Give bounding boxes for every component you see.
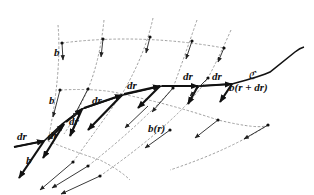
label-b-r-dr: b(r + dr) (229, 81, 268, 94)
label-dr: dr (69, 115, 80, 127)
dashed-grid (48, 18, 268, 180)
label-b-top: b (54, 46, 60, 58)
labels: b b b b(r) b(r + dr) ℭ dr dr dr dr dr dr… (17, 46, 268, 166)
label-b-middle: b (49, 94, 55, 106)
label-dr: dr (48, 129, 59, 141)
binormal-field-diagram: b b b b(r) b(r + dr) ℭ dr dr dr dr dr dr… (0, 0, 314, 195)
label-dr: dr (17, 130, 28, 142)
label-dr: dr (127, 79, 138, 91)
binormal-arrows-top (62, 37, 224, 62)
label-b-r: b(r) (148, 122, 165, 135)
label-dr: dr (183, 70, 194, 82)
binormal-arrows-lower (40, 106, 170, 194)
label-dr: dr (212, 70, 223, 82)
label-curve-c: ℭ (248, 69, 257, 81)
label-dr: dr (92, 94, 103, 106)
label-b-bottom: b (26, 154, 32, 166)
